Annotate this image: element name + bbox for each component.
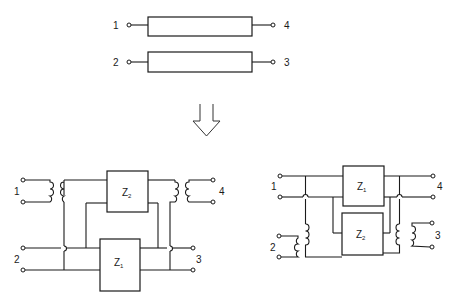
port-4-label: 4 [284, 20, 290, 31]
right-impedance-z2 [342, 213, 383, 255]
transformer-4-primary-coil [170, 180, 179, 246]
left-port-3-label: 3 [196, 254, 202, 265]
transformer-2-primary-coil [281, 236, 298, 257]
port-3-terminal [271, 60, 275, 64]
right-port-2-terminal-a [277, 234, 281, 238]
transmission-line-b [148, 52, 252, 72]
transformer-3-primary-coil [383, 224, 400, 253]
left-port-4-label: 4 [219, 186, 225, 197]
right-port-3-terminal-b [430, 245, 434, 249]
left-port-1-terminal-a [21, 178, 25, 182]
left-port-1-terminal-b [21, 200, 25, 204]
transformer-4-secondary-coil [186, 180, 213, 202]
right-port-2-terminal-b [277, 255, 281, 259]
transformer-1-secondary-coil [61, 180, 64, 202]
arrow-down-icon [193, 104, 220, 136]
right-port-1-terminal-b [278, 195, 282, 199]
right-port-3-terminal-a [430, 221, 434, 225]
top-coupled-lines: 1 4 2 3 [113, 17, 290, 72]
left-port-3-terminal-a [191, 246, 195, 250]
right-port-3-label: 3 [435, 230, 441, 241]
left-port-3-terminal-b [191, 268, 195, 272]
left-port-4-terminal-a [211, 178, 215, 182]
port-3-label: 3 [284, 57, 290, 68]
left-port-2-terminal-b [21, 268, 25, 272]
left-port-2-label: 2 [14, 254, 20, 265]
right-port-4-label: 4 [437, 181, 443, 192]
right-port-4-terminal-a [431, 174, 435, 178]
transformer-1-primary-coil [25, 180, 54, 202]
port-2-terminal [127, 60, 131, 64]
left-equivalent-circuit: 1 Z2 4 Z1 2 [14, 171, 225, 291]
right-port-1-label: 1 [271, 181, 277, 192]
transformer-3-secondary-coil [412, 223, 430, 247]
port-1-terminal [127, 23, 131, 27]
left-port-1-label: 1 [14, 186, 20, 197]
right-port-4-terminal-b [431, 195, 435, 199]
coupled-lines-diagram: 1 4 2 3 1 Z2 [0, 0, 456, 292]
transformer-2-secondary-coil [306, 224, 343, 257]
right-port-1-terminal-a [278, 174, 282, 178]
left-port-4-terminal-b [211, 200, 215, 204]
right-equivalent-circuit: 1 2 Z1 Z2 4 [270, 166, 443, 259]
transmission-line-a [148, 17, 252, 36]
left-port-2-terminal-a [21, 246, 25, 250]
right-port-2-label: 2 [270, 242, 276, 253]
port-4-terminal [271, 23, 275, 27]
port-1-label: 1 [113, 20, 119, 31]
port-2-label: 2 [113, 57, 119, 68]
right-impedance-z1 [343, 166, 384, 206]
